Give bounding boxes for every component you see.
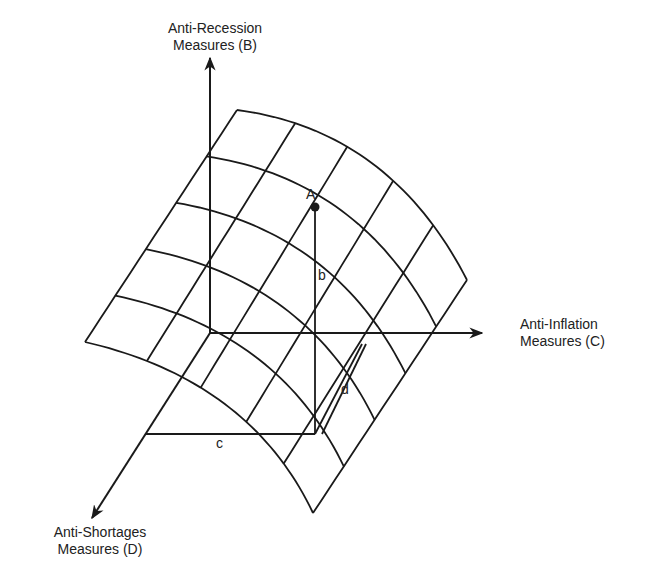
tradeoff-surface [85, 110, 467, 513]
surface-straight-line [313, 280, 467, 513]
projection-lines [145, 207, 366, 434]
axis-c-label-line1: Anti-Inflation [520, 316, 605, 333]
axis-b-label: Anti-Recession Measures (B) [140, 20, 290, 54]
axis-c-label: Anti-Inflation Measures (C) [520, 316, 605, 350]
projection-d-label: d [341, 382, 349, 396]
surface-arc-line [237, 110, 467, 280]
projection-d-line [315, 344, 362, 434]
surface-arc-line [115, 296, 343, 467]
axis-b-label-line2: Measures (B) [140, 37, 290, 54]
surface-straight-line [284, 225, 434, 463]
axis-d-label-line1: Anti-Shortages [25, 524, 175, 541]
axis-d-label: Anti-Shortages Measures (D) [25, 524, 175, 558]
projection-b-label: b [318, 268, 326, 282]
axis-b-label-line1: Anti-Recession [140, 20, 290, 37]
axes [92, 58, 482, 518]
axis-d-anti-shortages [92, 333, 210, 518]
point-a-marker [311, 203, 320, 212]
axis-d-label-line2: Measures (D) [25, 541, 175, 558]
axis-c-label-line2: Measures (C) [520, 333, 605, 350]
surface-diagram [0, 0, 652, 586]
point-a-label: A [306, 187, 315, 201]
surface-arc-line [207, 156, 437, 326]
surface-straight-line [246, 181, 393, 422]
projection-c-label: c [216, 436, 223, 450]
